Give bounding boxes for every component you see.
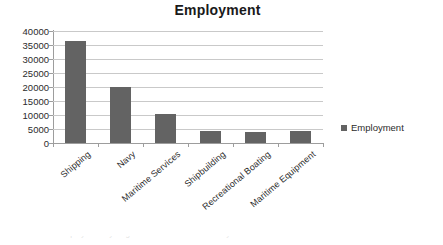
y-axis-tick-marks bbox=[0, 31, 53, 143]
scan-artifact-strip: Maritime Sector Employment by Segment To… bbox=[0, 236, 443, 245]
legend-swatch-employment bbox=[341, 125, 347, 131]
bar[interactable] bbox=[290, 131, 311, 143]
gridline bbox=[53, 31, 323, 32]
gridline bbox=[53, 115, 323, 116]
gridline bbox=[53, 87, 323, 88]
x-axis-category-label: Navy bbox=[114, 149, 136, 170]
gridline bbox=[53, 129, 323, 130]
bar[interactable] bbox=[65, 41, 86, 143]
gridline bbox=[53, 73, 323, 74]
employment-bar-chart: Employment 40000350003000025000200001500… bbox=[0, 0, 443, 245]
x-axis-category-label: Shipping bbox=[58, 149, 92, 180]
bar[interactable] bbox=[200, 131, 221, 143]
chart-title-text: Employment bbox=[174, 2, 260, 18]
bar[interactable] bbox=[155, 114, 176, 143]
scan-artifact-text: Maritime Sector Employment by Segment To… bbox=[0, 236, 443, 238]
x-axis-category-labels: ShippingNavyMaritime ServicesShipbuildin… bbox=[0, 143, 443, 243]
gridline bbox=[53, 101, 323, 102]
gridline bbox=[53, 59, 323, 60]
plot-area bbox=[53, 31, 323, 143]
gridline bbox=[53, 45, 323, 46]
x-axis-category-label: Shipbuilding bbox=[182, 149, 227, 189]
chart-title: Employment bbox=[0, 2, 443, 18]
legend-label-employment: Employment bbox=[351, 122, 404, 133]
chart-legend: Employment bbox=[341, 122, 404, 133]
bar[interactable] bbox=[245, 132, 266, 143]
bar[interactable] bbox=[110, 87, 131, 143]
